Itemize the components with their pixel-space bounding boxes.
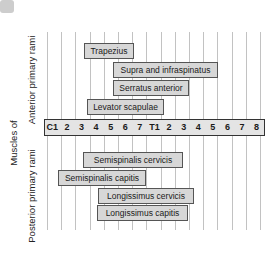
spinal-level-axis: C1 2 3 4 5 6 7 T1 2 3 4 5 6 7 8 bbox=[44, 119, 265, 136]
axis-tick-t8: 8 bbox=[249, 120, 264, 135]
muscle-bar-longissimus-cervicis: Longissimus cervicis bbox=[98, 188, 194, 204]
axis-tick-c6: 6 bbox=[118, 120, 133, 135]
muscle-bar-supra-and-infraspinatus: Supra and infraspinatus bbox=[113, 62, 218, 78]
corner-mark bbox=[0, 0, 14, 13]
axis-tick-t4: 4 bbox=[191, 120, 206, 135]
axis-tick-t6: 6 bbox=[220, 120, 235, 135]
muscle-bar-serratus-anterior: Serratus anterior bbox=[113, 80, 189, 96]
section-label-posterior-primary-rami: Posterior primary rami bbox=[25, 136, 39, 256]
axis-tick-c3: 3 bbox=[74, 120, 89, 135]
axis-tick-c1: C1 bbox=[45, 120, 60, 135]
muscle-bar-semispinalis-cervicis: Semispinalis cervicis bbox=[83, 152, 183, 168]
axis-tick-c2: 2 bbox=[60, 120, 75, 135]
muscle-bar-longissimus-capitis: Longissimus capitis bbox=[97, 205, 188, 221]
axis-tick-t2: 2 bbox=[162, 120, 177, 135]
axis-tick-c4: 4 bbox=[89, 120, 104, 135]
axis-tick-t7: 7 bbox=[235, 120, 250, 135]
axis-tick-t5: 5 bbox=[206, 120, 221, 135]
axis-tick-c7: 7 bbox=[133, 120, 148, 135]
muscle-bar-trapezius: Trapezius bbox=[84, 43, 134, 59]
group-label-muscles-of: Muscles of bbox=[7, 117, 21, 169]
axis-tick-t3: 3 bbox=[176, 120, 191, 135]
muscle-bar-levator-scapulae: Levator scapulae bbox=[87, 99, 164, 115]
section-label-anterior-primary-rami: Anterior primary rami bbox=[25, 25, 39, 135]
axis-tick-c5: 5 bbox=[103, 120, 118, 135]
muscle-innervation-diagram: Muscles of Anterior primary rami Posteri… bbox=[0, 0, 271, 256]
muscle-bar-semispinalis-capitis: Semispinalis capitis bbox=[58, 170, 146, 186]
axis-tick-t1: T1 bbox=[147, 120, 162, 135]
